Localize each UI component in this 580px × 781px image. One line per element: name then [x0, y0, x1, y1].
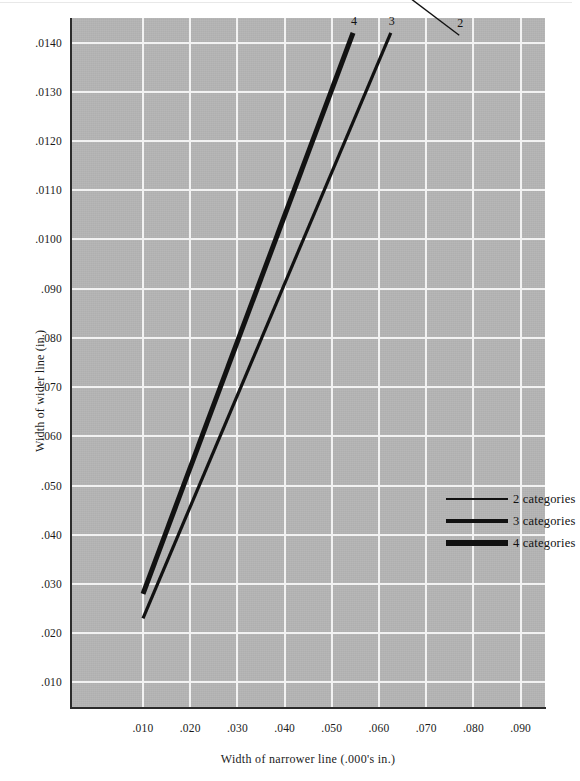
series-endpoint-label: 2: [457, 16, 463, 31]
series-paths: [143, 0, 459, 618]
legend-line-swatch: [446, 498, 508, 500]
series-endpoint-label: 4: [351, 14, 357, 29]
y-axis-title-wrap: Width of wider line (in.): [16, 0, 42, 781]
chart-legend: 2 categories3 categories4 categories: [446, 488, 580, 554]
x-axis-spine: [70, 707, 546, 709]
y-axis-spine: [70, 18, 72, 709]
series-line: [143, 33, 353, 594]
legend-label: 4 categories: [513, 536, 575, 551]
y-axis-title: Width of wider line (in.): [33, 281, 48, 501]
legend-line-swatch: [446, 540, 508, 545]
page-edge-artifact: [0, 2, 572, 3]
series-endpoint-label: 3: [389, 14, 395, 29]
legend-line-swatch: [446, 519, 508, 522]
legend-item[interactable]: 2 categories: [446, 488, 580, 510]
x-tick-label: .090: [491, 722, 551, 734]
x-axis-title: Width of narrower line (.000's in.): [70, 752, 546, 767]
plot-area: 234 2 categories3 categories4 categories: [70, 18, 545, 707]
legend-label: 3 categories: [513, 514, 575, 529]
series-layer: [70, 18, 545, 707]
legend-item[interactable]: 3 categories: [446, 510, 580, 532]
series-line: [143, 33, 391, 619]
legend-label: 2 categories: [513, 492, 575, 507]
series-line: [143, 0, 459, 35]
legend-item[interactable]: 4 categories: [446, 532, 580, 554]
